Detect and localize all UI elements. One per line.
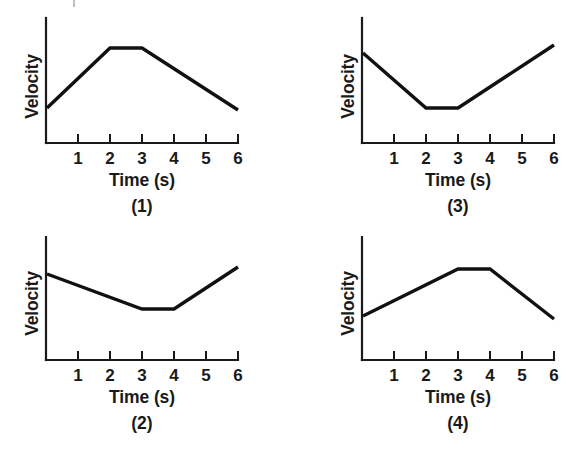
y-axis-title-2: Velocity <box>22 254 43 354</box>
x-tick-label: 1 <box>73 149 82 168</box>
x-tick-label: 3 <box>137 366 146 385</box>
velocity-curve-1 <box>47 48 238 110</box>
x-axis-title-1: Time (s) <box>72 170 212 191</box>
x-tick-label: 4 <box>169 149 179 168</box>
panel-caption-4: (4) <box>388 413 528 434</box>
x-axis-title-4: Time (s) <box>388 387 528 408</box>
x-tick-label: 1 <box>73 366 82 385</box>
x-tick-label: 6 <box>549 366 558 385</box>
velocity-curve-3 <box>363 45 554 108</box>
scan-artifact-speck <box>73 0 75 7</box>
x-tick-label: 5 <box>517 366 526 385</box>
y-axis-title-1: Velocity <box>22 37 43 137</box>
x-tick-label: 5 <box>517 149 526 168</box>
graph-panel-4: 1 2 3 4 5 6 Velocity Time (s) (4) <box>285 236 570 471</box>
x-tick-label: 2 <box>421 149 430 168</box>
y-axis-title-4: Velocity <box>338 254 359 354</box>
x-tick-label: 4 <box>485 149 495 168</box>
x-tick-label: 6 <box>233 366 242 385</box>
x-tick-label: 3 <box>453 149 462 168</box>
x-tick-label: 4 <box>485 366 495 385</box>
x-tick-label: 2 <box>105 149 114 168</box>
velocity-curve-2 <box>47 267 238 309</box>
x-axis-ticks-3 <box>394 134 554 143</box>
x-axis-ticks-1 <box>78 134 238 143</box>
x-tick-label: 2 <box>421 366 430 385</box>
velocity-curve-4 <box>363 269 554 319</box>
x-tick-label: 4 <box>169 366 179 385</box>
plot-area-panel-3: 1 2 3 4 5 6 <box>285 0 570 175</box>
x-tick-label: 2 <box>105 366 114 385</box>
x-axis-ticks-4 <box>394 351 554 360</box>
plot-area-panel-1: 1 2 3 4 5 6 <box>0 0 285 175</box>
y-axis-title-3: Velocity <box>338 37 359 137</box>
x-tick-label: 6 <box>549 149 558 168</box>
panel-caption-2: (2) <box>72 413 212 434</box>
x-tick-label: 1 <box>389 149 398 168</box>
plot-area-panel-2: 1 2 3 4 5 6 <box>0 236 285 411</box>
x-tick-label: 3 <box>137 149 146 168</box>
x-tick-label: 1 <box>389 366 398 385</box>
x-axis-title-3: Time (s) <box>388 170 528 191</box>
x-axis-title-2: Time (s) <box>72 387 212 408</box>
four-velocity-time-graphs-figure: 1 2 3 4 5 6 Velocity Time (s) (1) 1 <box>0 0 570 471</box>
plot-area-panel-4: 1 2 3 4 5 6 <box>285 236 570 411</box>
graph-panel-3: 1 2 3 4 5 6 Velocity Time (s) (3) <box>285 0 570 235</box>
graph-panel-1: 1 2 3 4 5 6 Velocity Time (s) (1) <box>0 0 285 235</box>
x-axis-ticks-2 <box>78 351 238 360</box>
graph-panel-2: 1 2 3 4 5 6 Velocity Time (s) (2) <box>0 236 285 471</box>
x-tick-label: 6 <box>233 149 242 168</box>
panel-caption-1: (1) <box>72 196 212 217</box>
panel-caption-3: (3) <box>388 196 528 217</box>
x-tick-label: 3 <box>453 366 462 385</box>
x-tick-label: 5 <box>201 149 210 168</box>
x-tick-label: 5 <box>201 366 210 385</box>
